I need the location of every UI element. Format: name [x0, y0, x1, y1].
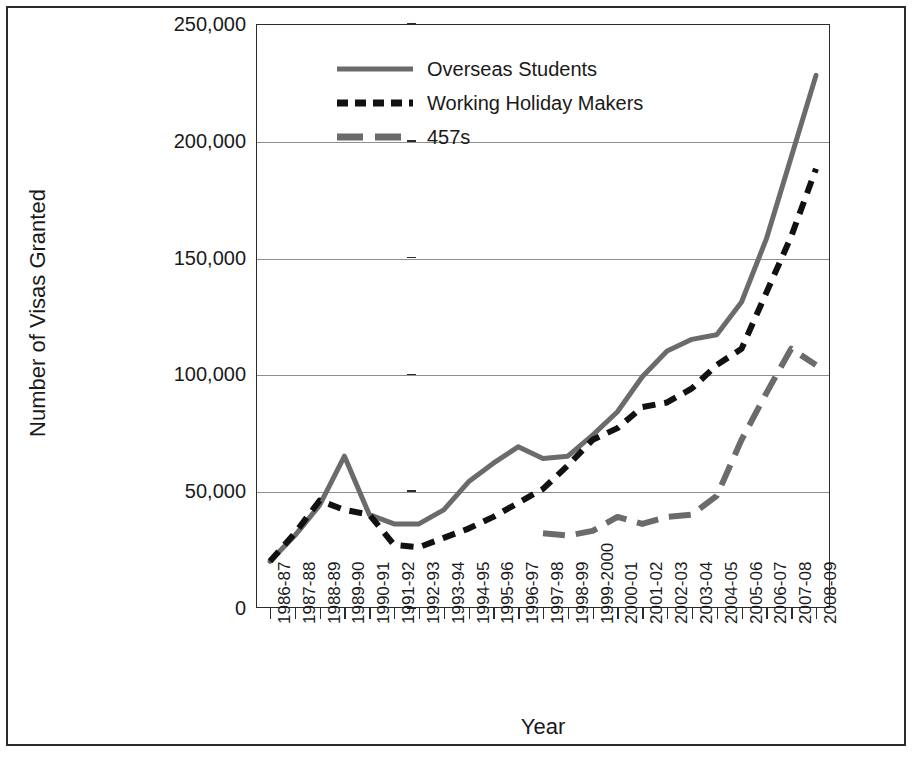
x-tick-mark: [493, 608, 494, 619]
x-tick-mark: [667, 608, 668, 619]
x-tick-label: 1989-90: [350, 562, 367, 624]
y-axis-tick-labels: 050,000100,000150,000200,000250,000: [160, 0, 246, 759]
x-tick-mark: [543, 608, 544, 619]
x-tick-label: 1993-94: [450, 562, 467, 624]
x-tick-mark: [369, 608, 370, 619]
legend-label: Overseas Students: [427, 59, 597, 79]
y-tick-label: 0: [235, 598, 246, 618]
gridline-100000: [257, 375, 829, 376]
x-tick-label: 1990-91: [375, 562, 392, 624]
x-tick-mark: [742, 608, 743, 619]
x-tick-label: 1987-88: [301, 562, 318, 624]
x-tick-label: 2004-05: [723, 562, 740, 624]
y-tick-label: 50,000: [185, 481, 246, 501]
x-tick-label: 2006-07: [772, 562, 789, 624]
x-tick-mark: [469, 608, 470, 619]
y-tick-label: 250,000: [174, 14, 246, 34]
x-tick-label: 2005-06: [748, 562, 765, 624]
y-tick-label: 200,000: [174, 131, 246, 151]
x-tick-mark: [295, 608, 296, 619]
x-tick-label: 1986-87: [276, 562, 293, 624]
legend-item-457s[interactable]: 457s: [336, 120, 666, 154]
gridline-150000: [257, 259, 829, 260]
y-tick-label: 150,000: [174, 248, 246, 268]
legend-line-longdash-icon: [336, 129, 414, 145]
x-tick-mark: [518, 608, 519, 619]
x-tick-mark: [717, 608, 718, 619]
x-tick-mark: [270, 608, 271, 619]
legend-label: 457s: [427, 127, 470, 147]
x-tick-mark: [568, 608, 569, 619]
x-tick-mark: [320, 608, 321, 619]
x-tick-mark: [692, 608, 693, 619]
x-tick-label: 2003-04: [698, 562, 715, 624]
x-tick-mark: [791, 608, 792, 619]
legend-item-working-holiday-makers[interactable]: Working Holiday Makers: [336, 86, 666, 120]
legend-item-overseas-students[interactable]: Overseas Students: [336, 52, 666, 86]
x-tick-label: 2008-09: [822, 562, 839, 624]
x-tick-mark: [419, 608, 420, 619]
x-tick-mark: [617, 608, 618, 619]
gridline-50000: [257, 492, 829, 493]
x-tick-label: 2000-01: [623, 562, 640, 624]
x-tick-label: 1994-95: [475, 562, 492, 624]
x-tick-label: 1998-99: [574, 562, 591, 624]
x-tick-label: 1996-97: [524, 562, 541, 624]
x-tick-label: 2007-08: [797, 562, 814, 624]
x-tick-mark: [766, 608, 767, 619]
x-tick-label: 1995-96: [499, 562, 516, 624]
x-tick-label: 1992-93: [425, 562, 442, 624]
y-axis-title-wrapper: Number of Visas Granted: [0, 0, 1, 1]
x-tick-mark: [394, 608, 395, 619]
x-tick-label: 1999-2000: [599, 543, 616, 624]
chart-figure: 050,000100,000150,000200,000250,000 Numb…: [0, 0, 914, 759]
x-tick-mark: [816, 608, 817, 619]
x-tick-label: 1988-89: [326, 562, 343, 624]
x-tick-label: 1991-92: [400, 562, 417, 624]
y-axis-title: Number of Visas Granted: [25, 153, 51, 473]
legend-line-dashed-icon: [336, 95, 414, 111]
x-axis-title: Year: [256, 714, 830, 740]
legend-line-solid-icon: [336, 61, 414, 77]
x-tick-mark: [444, 608, 445, 619]
x-tick-mark: [593, 608, 594, 619]
y-tick-label: 100,000: [174, 364, 246, 384]
x-tick-mark: [642, 608, 643, 619]
x-tick-label: 2001-02: [648, 562, 665, 624]
legend-label: Working Holiday Makers: [427, 93, 643, 113]
x-tick-label: 1997-98: [549, 562, 566, 624]
chart-legend: Overseas StudentsWorking Holiday Makers4…: [336, 52, 666, 154]
x-tick-label: 2002-03: [673, 562, 690, 624]
x-tick-mark: [344, 608, 345, 619]
